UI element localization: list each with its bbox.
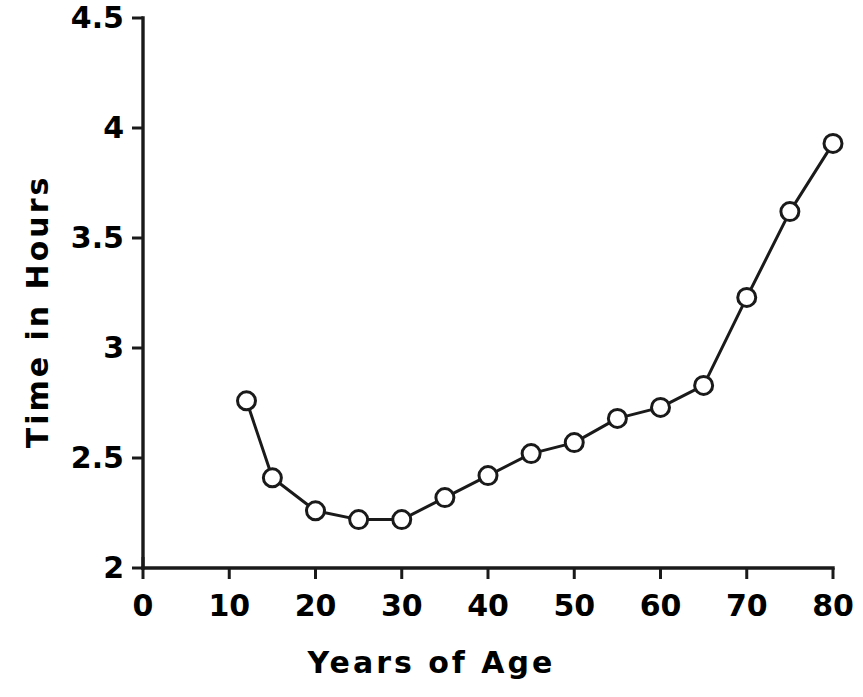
y-axis-title: Time in Hours xyxy=(20,112,55,512)
data-point-marker xyxy=(263,469,281,487)
data-point-marker xyxy=(479,467,497,485)
x-tick-label: 20 xyxy=(295,591,337,621)
data-point-marker xyxy=(307,502,325,520)
y-tick-label: 2 xyxy=(0,553,124,583)
x-tick-label: 60 xyxy=(640,591,682,621)
x-axis-title: Years of Age xyxy=(0,645,863,680)
data-point-marker xyxy=(695,376,713,394)
data-point-marker xyxy=(238,392,256,410)
chart-container: 22.533.544.5 01020304050607080 Years of … xyxy=(0,0,863,697)
data-point-marker xyxy=(781,203,799,221)
x-tick-label: 70 xyxy=(726,591,768,621)
data-point-marker xyxy=(436,489,454,507)
tick-marks xyxy=(132,18,833,579)
data-point-marker xyxy=(652,398,670,416)
data-point-marker xyxy=(738,288,756,306)
data-point-marker xyxy=(522,445,540,463)
x-tick-label: 80 xyxy=(812,591,854,621)
x-tick-label: 10 xyxy=(208,591,250,621)
series-polyline xyxy=(247,143,834,519)
x-tick-label: 40 xyxy=(467,591,509,621)
data-series-line xyxy=(247,143,834,519)
x-tick-label: 30 xyxy=(381,591,423,621)
data-point-marker xyxy=(565,434,583,452)
data-point-marker xyxy=(350,511,368,529)
y-tick-label: 4.5 xyxy=(0,3,124,33)
x-tick-label: 50 xyxy=(553,591,595,621)
data-point-markers xyxy=(238,134,843,528)
x-tick-label: 0 xyxy=(133,591,154,621)
data-point-marker xyxy=(608,409,626,427)
data-point-marker xyxy=(824,134,842,152)
data-point-marker xyxy=(393,511,411,529)
